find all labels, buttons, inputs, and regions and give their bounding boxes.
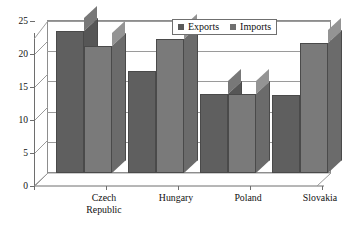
square-marker-icon xyxy=(230,24,236,30)
bar-exports-poland[interactable] xyxy=(200,94,228,173)
chart-legend: Exports Imports xyxy=(172,19,277,35)
x-label-czech-republic-line1: Czech xyxy=(66,192,142,204)
y-tick-label-20: 20 xyxy=(6,49,28,59)
y-tick-label-5: 5 xyxy=(6,148,28,158)
square-marker-icon xyxy=(178,24,184,30)
bars-layer xyxy=(34,20,331,186)
x-label-czech-republic-line2: Republic xyxy=(66,204,142,216)
y-tick-label-15: 15 xyxy=(6,82,28,92)
bar-exports-hungary[interactable] xyxy=(128,71,156,173)
x-label-poland: Poland xyxy=(210,192,286,204)
bar-exports-slovakia[interactable] xyxy=(272,95,300,173)
bar-imports-slovakia[interactable] xyxy=(300,43,328,173)
y-tick-label-25: 25 xyxy=(6,16,28,26)
x-label-hungary: Hungary xyxy=(138,192,214,204)
legend-label-imports: Imports xyxy=(240,22,271,32)
x-label-czech-republic: Czech Republic xyxy=(66,192,142,215)
plot-area xyxy=(34,20,331,186)
bar-imports-czech-republic[interactable] xyxy=(84,46,112,173)
x-axis-labels: Czech Republic Hungary Poland Slovakia xyxy=(34,190,334,230)
legend-item-exports[interactable]: Exports xyxy=(178,22,219,32)
bar-exports-czech-republic[interactable] xyxy=(56,31,84,173)
bar-imports-hungary[interactable] xyxy=(156,39,184,173)
x-label-slovakia: Slovakia xyxy=(282,192,346,204)
y-tick-label-0: 0 xyxy=(6,181,28,191)
bar-imports-poland[interactable] xyxy=(228,94,256,173)
legend-label-exports: Exports xyxy=(188,22,219,32)
y-tick-label-10: 10 xyxy=(6,115,28,125)
legend-item-imports[interactable]: Imports xyxy=(230,22,271,32)
